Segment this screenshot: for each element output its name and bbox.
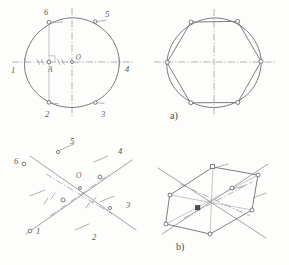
center-label-O: O	[76, 53, 82, 62]
vertex-label-1: 1	[36, 226, 40, 236]
vertex-label-2: 2	[92, 232, 97, 242]
caption-b: b)	[176, 241, 184, 252]
axonometric-axis-lines	[158, 164, 268, 238]
panel-hexagon-axonometric	[140, 130, 289, 265]
vertex-label-4: 4	[125, 64, 130, 74]
caption-a: a)	[170, 110, 178, 121]
vertex-label-1: 1	[11, 65, 15, 75]
axis-measure-ticks	[30, 144, 114, 230]
panel-axonometric-axes: 5 4 6 3 1 2 O	[0, 130, 145, 265]
vertex-label-6: 6	[14, 156, 19, 166]
vertex-label-6: 6	[44, 7, 49, 17]
axonometric-center-lines	[46, 174, 112, 216]
leader-ticks	[214, 164, 266, 198]
panel-hexagon-inscribed	[140, 0, 289, 132]
vertex-label-3: 3	[100, 109, 105, 119]
axonometric-center-lines	[180, 182, 252, 218]
axonometric-vertex-markers	[164, 165, 260, 236]
panel-orthographic-construction: 6 5 1 4 2 3 O A	[0, 0, 145, 132]
axonometric-point-markers	[22, 150, 112, 233]
center-label-O: O	[76, 171, 82, 180]
vertex-label-4: 4	[118, 146, 123, 156]
vertex-label-3: 3	[125, 200, 130, 210]
vertex-label-5: 5	[70, 136, 74, 146]
drawing-sheet: 6 5 1 4 2 3 O A	[0, 0, 289, 265]
vertex-label-2: 2	[45, 109, 50, 119]
vertex-label-5: 5	[105, 9, 109, 19]
aux-point-label-A: A	[47, 65, 53, 74]
